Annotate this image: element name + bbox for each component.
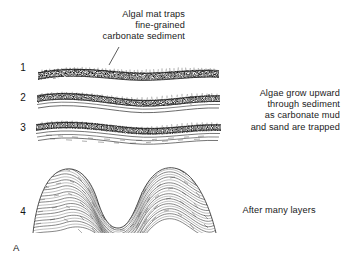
leader-line-top (109, 47, 119, 65)
panel-1-artwork (30, 47, 230, 86)
panel-label-4: 4 (16, 206, 30, 217)
panel-label-3: 3 (16, 122, 30, 133)
caption-algae-grow-upward: Algae grow upward through sediment as ca… (218, 88, 340, 133)
caption-after-many-layers: After many layers (218, 205, 340, 216)
panel-3-artwork (30, 115, 230, 144)
panel-2-artwork (30, 86, 230, 113)
panel-label-1: 1 (16, 62, 30, 73)
caption-algal-mat-traps: Algal mat traps fine-grained carbonate s… (30, 9, 185, 43)
panel-4-artwork (28, 162, 218, 253)
figure-label-a: A (13, 242, 19, 253)
panel-label-2: 2 (16, 92, 30, 103)
stromatolite-formation-diagram: Algal mat traps fine-grained carbonate s… (0, 0, 345, 266)
